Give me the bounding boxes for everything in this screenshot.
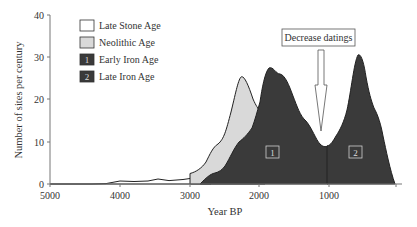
svg-text:Neolithic Age: Neolithic Age — [99, 37, 155, 48]
y-tick-label: 10 — [34, 137, 44, 148]
legend-item-neolithic-age: Neolithic Age — [80, 37, 155, 48]
x-axis-title: Year BP — [208, 206, 243, 217]
svg-text:2: 2 — [85, 72, 90, 82]
legend-swatch — [80, 20, 94, 31]
svg-text:2: 2 — [353, 148, 358, 158]
legend: Late Stone Age Neolithic Age 1 Early Iro… — [80, 20, 161, 82]
x-tick-label: 4000 — [110, 190, 130, 201]
x-tick-label: 1000 — [319, 190, 339, 201]
x-tick-label: 2000 — [249, 190, 269, 201]
series-late-iron-age-area — [327, 55, 395, 184]
y-axis-title: Number of sites per century — [13, 41, 24, 159]
y-tick-label: 40 — [34, 10, 44, 21]
y-axis: 0 10 20 30 40 — [34, 10, 50, 190]
annotation-label: Decrease datings — [284, 32, 352, 43]
y-tick-label: 30 — [34, 52, 44, 63]
svg-text:1: 1 — [270, 148, 275, 158]
x-tick-label: 5000 — [40, 190, 60, 201]
svg-text:Early Iron Age: Early Iron Age — [99, 54, 159, 65]
y-tick-label: 0 — [39, 179, 44, 190]
svg-text:1: 1 — [85, 55, 90, 65]
series-late-stone-age-area — [50, 171, 211, 184]
legend-item-late-stone-age: Late Stone Age — [80, 20, 161, 31]
chart: 1 2 Decrease datings 0 10 20 30 40 Numbe… — [0, 0, 417, 227]
y-tick-label: 20 — [34, 94, 44, 105]
svg-text:Late Stone Age: Late Stone Age — [99, 20, 161, 31]
legend-swatch — [80, 37, 94, 48]
down-arrow-icon — [315, 50, 327, 131]
legend-item-early-iron-age: 1 Early Iron Age — [80, 54, 159, 65]
x-tick-label: 3000 — [180, 190, 200, 201]
legend-item-late-iron-age: 2 Late Iron Age — [80, 71, 155, 82]
svg-text:Late Iron Age: Late Iron Age — [99, 71, 155, 82]
x-axis: 5000 4000 3000 2000 1000 — [40, 184, 402, 201]
